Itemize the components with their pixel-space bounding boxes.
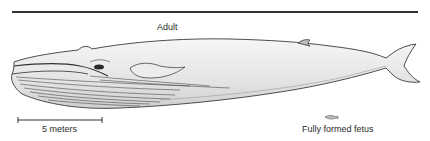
fetus-label: Fully formed fetus <box>302 124 374 134</box>
whale-illustration <box>0 0 430 141</box>
fetus-icon <box>325 116 338 120</box>
eye-icon <box>94 65 104 70</box>
adult-whale-icon <box>11 39 420 109</box>
scale-bar-label: 5 meters <box>42 124 77 134</box>
scale-bar <box>18 117 102 123</box>
